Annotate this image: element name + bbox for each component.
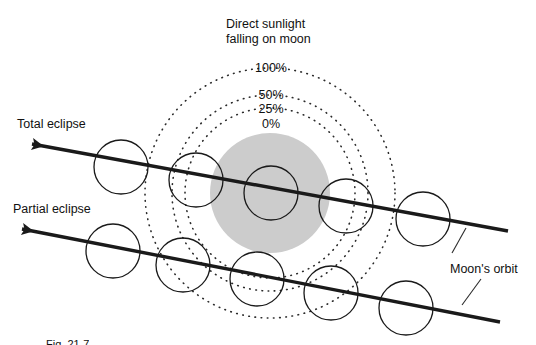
ring-label-100: 100% [246,61,296,75]
total-eclipse-label: Total eclipse [17,117,86,132]
moons-orbit-label: Moon's orbit [450,262,518,277]
heading-line-1: Direct sunlight [226,17,305,32]
ring-label-25: 25% [246,102,296,116]
ring-label-0: 0% [246,117,296,131]
moon-circle [94,140,148,194]
leader-line [462,279,481,305]
partial-eclipse-label: Partial eclipse [13,202,91,217]
heading-line-2: falling on moon [226,32,311,47]
diagram-canvas: Direct sunlight falling on moon 100% 50%… [0,0,536,345]
ring-label-50: 50% [246,88,296,102]
leader-line [452,228,466,253]
umbra-shadow-disc [210,133,330,253]
figure-caption: Fig. 21-7 [46,338,89,345]
diagram-svg [0,0,536,345]
